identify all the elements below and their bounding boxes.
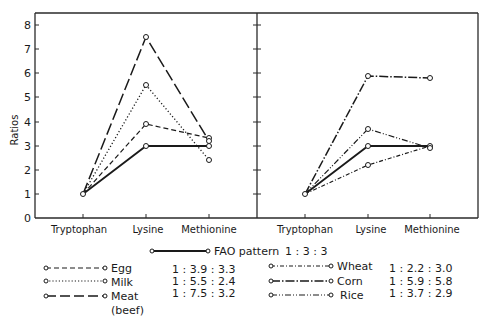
y-axis-label: Ratios (9, 115, 20, 146)
x-label-tryptophan-right: Tryptophan (276, 224, 333, 235)
legend-left (44, 266, 107, 298)
legend-milk-label: Milk (111, 276, 134, 289)
left-panel-series (83, 37, 209, 194)
legend-meat-ratio: 1 : 7.5 : 3.2 (172, 287, 235, 300)
right-panel-series (305, 76, 430, 194)
left-panel-markers (81, 35, 212, 197)
plot-frame (35, 13, 478, 218)
series-milk (83, 85, 209, 194)
legend-wheat-ratio: 1 : 2.2 : 3.0 (389, 262, 452, 275)
series-rice (305, 129, 430, 194)
amino-acid-ratio-chart: 0 1 2 3 4 5 6 7 8 Ratios Tryptophan Lysi… (0, 0, 492, 326)
x-label-tryptophan-left: Tryptophan (50, 224, 107, 235)
y-tick-1: 1 (24, 188, 31, 201)
x-label-methionine-left: Methionine (181, 224, 237, 235)
x-label-methionine-right: Methionine (404, 224, 460, 235)
y-tick-3: 3 (24, 140, 31, 153)
y-tick-0: 0 (24, 212, 31, 225)
legend-egg-label: Egg (111, 262, 132, 275)
x-label-lysine-right: Lysine (355, 224, 386, 235)
y-tick-4: 4 (24, 116, 31, 129)
legend-wheat-label: Wheat (337, 260, 373, 273)
y-axis: 0 1 2 3 4 5 6 7 8 Ratios (9, 19, 261, 225)
series-meat-beef (83, 37, 209, 194)
y-tick-5: 5 (24, 91, 31, 104)
series-fao-right (305, 146, 430, 194)
legend-fao-ratio: 1 : 3 : 3 (285, 245, 327, 258)
y-tick-7: 7 (24, 43, 31, 56)
y-tick-6: 6 (24, 67, 31, 80)
legend-meat-label: Meat (111, 290, 139, 303)
legend-right (269, 264, 333, 297)
series-fao-left (83, 146, 209, 194)
legend-meat-label2: (beef) (111, 304, 144, 317)
series-wheat (305, 146, 430, 194)
x-axis: Tryptophan Lysine Methionine Tryptophan … (50, 214, 460, 235)
series-egg (83, 124, 209, 194)
y-tick-8: 8 (24, 19, 31, 32)
y-tick-2: 2 (24, 164, 31, 177)
series-corn (305, 76, 430, 194)
legend-corn-label: Corn (337, 275, 363, 288)
legend-fao: FAO pattern 1 : 3 : 3 (150, 245, 327, 258)
legend-rice-label: Rice (340, 289, 364, 302)
legend-fao-label: FAO pattern (214, 245, 279, 258)
legend-rice-ratio: 1 : 3.7 : 2.9 (389, 287, 452, 300)
x-label-lysine-left: Lysine (132, 224, 163, 235)
right-panel-markers (303, 74, 433, 197)
